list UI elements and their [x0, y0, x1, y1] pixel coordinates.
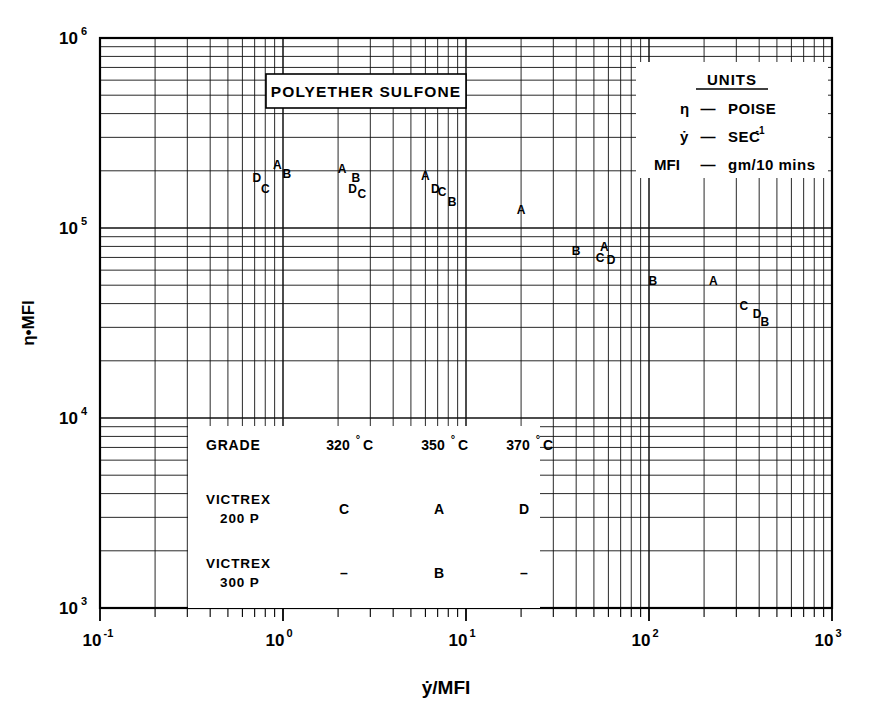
- x-tick-label-base: 10: [83, 631, 102, 650]
- grade-row-name-line1: VICTREX: [206, 492, 271, 507]
- x-tick-label-exponent: 3: [836, 627, 842, 639]
- degree-icon: °: [451, 433, 455, 445]
- x-tick-label-base: 10: [815, 631, 834, 650]
- grade-row-cell: –: [520, 565, 528, 581]
- grade-row-name-line2: 200 P: [220, 511, 260, 526]
- y-tick-label-exponent: 4: [81, 405, 88, 417]
- data-point-label: D: [348, 182, 357, 196]
- data-point-label: B: [572, 244, 581, 258]
- units-row-symbol: ẏ: [680, 128, 689, 145]
- grade-row-name-line1: VICTREX: [206, 556, 271, 571]
- data-point-label: A: [338, 162, 347, 176]
- x-tick-label-exponent: 1: [470, 627, 476, 639]
- units-row-symbol: η: [680, 100, 689, 117]
- grade-row-cell: –: [340, 565, 348, 581]
- y-tick-label-exponent: 5: [81, 215, 87, 227]
- grade-table-header-temp-value: 350: [421, 437, 445, 453]
- data-point-label: B: [448, 195, 457, 209]
- log-log-scatter-chart: 10-1100101102103103104105106ẏ/MFIη•MFIDC…: [0, 0, 875, 701]
- grade-row-cell: D: [519, 501, 529, 517]
- grade-table-header-grade: GRADE: [206, 437, 261, 453]
- data-point-label: A: [421, 169, 430, 183]
- data-point-label: A: [273, 158, 282, 172]
- units-box-heading: UNITS: [707, 71, 757, 88]
- data-point-label: C: [261, 182, 270, 196]
- y-tick-label-base: 10: [59, 409, 78, 428]
- grade-row-cell: C: [339, 501, 349, 517]
- grade-row-name-line2: 300 P: [220, 575, 260, 590]
- grade-table-header-temp-value: 320: [326, 437, 350, 453]
- units-row-value: POISE: [728, 100, 776, 117]
- x-tick-label-base: 10: [632, 631, 651, 650]
- y-tick-label-base: 10: [59, 29, 78, 48]
- y-tick-label-base: 10: [59, 219, 78, 238]
- x-tick-label-exponent: 2: [653, 627, 659, 639]
- title-box-text: POLYETHER SULFONE: [271, 83, 461, 100]
- grade-table-header-unit: C: [458, 437, 468, 453]
- x-tick-label-base: 10: [266, 631, 285, 650]
- degree-icon: °: [536, 433, 540, 445]
- data-point-label: D: [607, 253, 616, 267]
- grade-table-header-temp-value: 370: [506, 437, 530, 453]
- data-point-label: B: [761, 315, 770, 329]
- data-point-label: C: [438, 185, 447, 199]
- data-point-label: C: [596, 251, 605, 265]
- x-tick-label-exponent: 0: [287, 627, 293, 639]
- data-point-label: C: [358, 187, 367, 201]
- y-tick-label-exponent: 3: [81, 595, 87, 607]
- x-axis-title: ẏ/MFI: [422, 677, 471, 698]
- degree-icon: °: [356, 433, 360, 445]
- x-tick-label-exponent: -1: [104, 627, 114, 639]
- units-row-dash: —: [701, 128, 716, 145]
- y-tick-label-exponent: 6: [81, 25, 87, 37]
- y-axis-title: η•MFI: [19, 300, 38, 346]
- data-point-label: B: [283, 167, 292, 181]
- units-row-symbol: MFI: [654, 156, 680, 173]
- units-row-dash: —: [701, 156, 716, 173]
- units-row-superscript: -1: [756, 125, 765, 136]
- x-tick-label-base: 10: [449, 631, 468, 650]
- grade-table-header-unit: C: [543, 437, 553, 453]
- y-axis-title-group: η•MFI: [19, 300, 38, 346]
- units-row-dash: —: [701, 100, 716, 117]
- grade-table-header-unit: C: [363, 437, 373, 453]
- figure-root: 10-1100101102103103104105106ẏ/MFIη•MFIDC…: [0, 0, 875, 701]
- grade-row-cell: B: [434, 565, 444, 581]
- grade-row-cell: A: [434, 501, 444, 517]
- data-point-label: A: [517, 203, 526, 217]
- data-point-label: A: [709, 274, 718, 288]
- units-row-value: gm/10 mins: [728, 156, 816, 173]
- data-point-label: C: [740, 299, 749, 313]
- data-point-label: B: [649, 274, 658, 288]
- y-tick-label-base: 10: [59, 599, 78, 618]
